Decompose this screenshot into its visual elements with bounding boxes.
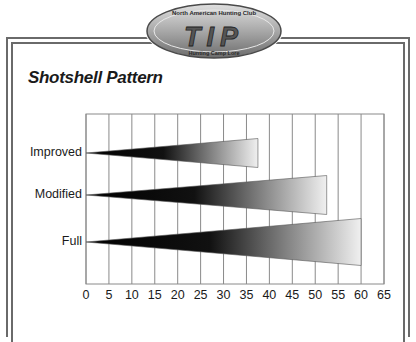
x-tick-label: 30 [212,288,236,302]
x-tick-label: 10 [120,288,144,302]
x-tick-label: 45 [280,288,304,302]
x-tick-label: 0 [74,288,98,302]
x-tick-label: 35 [234,288,258,302]
y-label-modified: Modified [2,187,82,201]
x-tick-label: 50 [303,288,327,302]
x-tick-label: 20 [166,288,190,302]
x-tick-label: 5 [97,288,121,302]
x-tick-label: 25 [189,288,213,302]
x-tick-label: 40 [257,288,281,302]
x-tick-label: 15 [143,288,167,302]
x-tick-label: 60 [349,288,373,302]
y-label-full: Full [2,234,82,248]
y-label-improved: Improved [2,145,82,159]
x-tick-label: 55 [326,288,350,302]
bar-improved [86,139,258,168]
x-tick-label: 65 [372,288,396,302]
bar-modified [86,176,327,215]
